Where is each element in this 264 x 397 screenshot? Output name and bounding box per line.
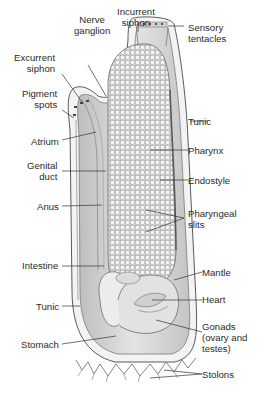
label-stomach: Stomach (21, 339, 59, 350)
label-genital-duct: Genital duct (27, 160, 57, 182)
label-intestine: Intestine (22, 260, 58, 271)
label-atrium: Atrium (31, 136, 59, 147)
label-anus: Anus (37, 201, 59, 212)
label-gonads: Gonads (ovary and testes) (202, 321, 247, 354)
tunicate-diagram: Incurrent siphon Nerve ganglion Excurren… (0, 0, 264, 397)
label-heart: Heart (202, 294, 225, 305)
label-tunic-top: Tunic (188, 116, 211, 127)
label-excurrent-siphon: Excurrent siphon (14, 52, 55, 74)
label-nerve-ganglion: Nerve ganglion (74, 14, 110, 36)
label-pigment-spots: Pigment spots (22, 88, 57, 110)
pharynx-basket (108, 44, 176, 288)
label-pharyngeal-slits: Pharyngeal slits (188, 208, 237, 230)
label-stolons: Stolons (202, 369, 234, 380)
label-pharynx: Pharynx (188, 145, 223, 156)
label-tunic-bottom: Tunic (36, 301, 59, 312)
label-mantle: Mantle (202, 267, 231, 278)
label-incurrent-siphon: Incurrent siphon (117, 6, 155, 28)
label-sensory-tentacles: Sensory tentacles (188, 22, 226, 44)
label-endostyle: Endostyle (188, 175, 230, 186)
